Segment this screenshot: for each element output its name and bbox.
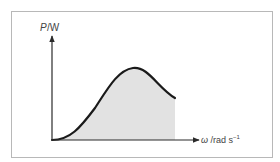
x-axis-label: ω /rad s−1: [201, 134, 240, 145]
y-axis-label: P/W: [40, 22, 60, 33]
shaded-area: [52, 68, 175, 140]
